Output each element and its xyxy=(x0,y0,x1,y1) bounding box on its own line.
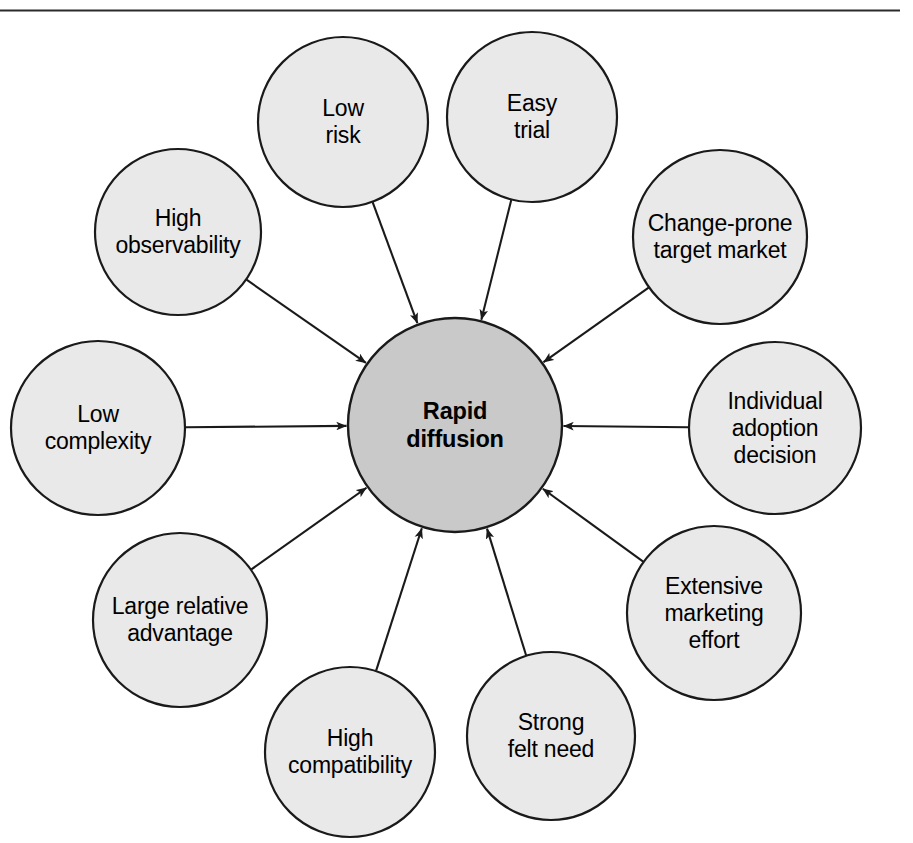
node-circle-change-prone-target-market[interactable] xyxy=(633,150,807,324)
node-circle-easy-trial[interactable] xyxy=(447,32,617,202)
node-circle-strong-felt-need[interactable] xyxy=(467,652,635,820)
node-circle-individual-adoption-decision[interactable] xyxy=(689,342,861,514)
node-circle-large-relative-advantage[interactable] xyxy=(93,533,267,707)
connector-arrow-large-relative-advantage xyxy=(251,488,366,570)
connector-arrow-high-observability xyxy=(247,280,366,363)
connector-arrow-low-risk xyxy=(373,202,418,323)
node-circle-high-observability[interactable] xyxy=(95,149,261,315)
connector-arrow-individual-adoption-decision xyxy=(564,426,689,427)
connector-arrow-easy-trial xyxy=(481,200,511,320)
node-circle-extensive-marketing-effort[interactable] xyxy=(627,526,801,700)
connector-arrow-high-compatibility xyxy=(376,528,422,670)
node-circle-low-risk[interactable] xyxy=(258,37,428,207)
connector-arrow-low-complexity xyxy=(186,426,347,427)
center-node-circle xyxy=(348,318,562,532)
connector-arrow-extensive-marketing-effort xyxy=(543,489,643,562)
connector-arrow-strong-felt-need xyxy=(487,529,526,656)
connector-arrow-change-prone-target-market xyxy=(543,288,648,363)
diffusion-diagram: Low riskEasy trialChange-prone target ma… xyxy=(0,0,913,843)
diagram-canvas xyxy=(0,0,913,843)
node-circle-rapid-diffusion[interactable] xyxy=(348,318,562,532)
node-circle-high-compatibility[interactable] xyxy=(265,667,435,837)
node-circle-low-complexity[interactable] xyxy=(11,341,185,515)
